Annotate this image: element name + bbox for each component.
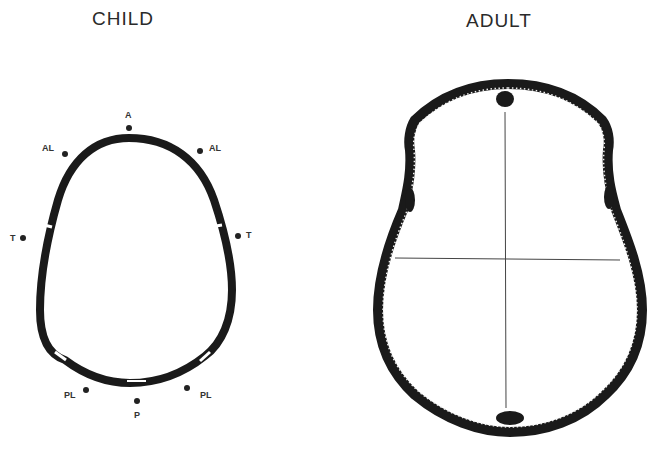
label-posterior: P [134,410,140,420]
skull-diagram [0,0,653,451]
dot-posterolateral-left [83,387,89,393]
coronal-axis-line [395,258,620,260]
dot-posterior [134,398,140,404]
dot-posterolateral-right [184,385,190,391]
sagittal-axis-line [505,112,506,408]
dot-anterolateral-right [197,148,203,154]
posterior-bump [496,411,524,425]
label-posterolateral-right: PL [200,390,212,400]
child-skull [20,125,241,404]
label-posterolateral-left: PL [64,390,76,400]
anterior-bump [496,91,514,107]
dot-anterolateral-left [62,151,68,157]
dot-temporal-left [20,235,26,241]
adult-skull [378,84,642,432]
label-anterior: A [125,110,132,120]
label-temporal-left: T [10,233,16,243]
dot-anterior [126,125,132,131]
right-temporal-bump [604,185,614,209]
label-temporal-right: T [246,230,252,240]
adult-diploe-dots [383,88,637,427]
label-anterolateral-right: AL [209,143,221,153]
child-skull-outline [40,138,232,383]
dot-temporal-right [235,233,241,239]
label-anterolateral-left: AL [42,143,54,153]
gap-right-temporal [210,225,222,227]
left-temporal-bump [405,188,415,212]
